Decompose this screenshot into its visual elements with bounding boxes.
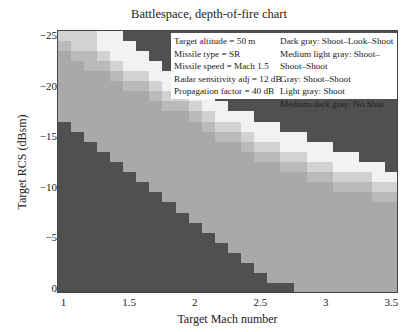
y-tick-label: −5 bbox=[45, 231, 57, 243]
heatmap-cell bbox=[294, 283, 308, 293]
heatmap-cell bbox=[215, 283, 229, 293]
legend-key: Light gray: Shoot bbox=[280, 85, 397, 98]
legend-param: Radar sensitivity adj = 12 dB bbox=[174, 73, 282, 86]
x-tick-label: 1.5 bbox=[122, 296, 136, 308]
heatmap-cell bbox=[280, 283, 295, 293]
y-tick-label: −15 bbox=[40, 130, 57, 142]
heatmap-cell bbox=[359, 283, 373, 293]
legend-param: Target altitude = 50 m bbox=[174, 35, 282, 48]
heatmap-cell bbox=[333, 283, 347, 293]
legend-key: Gray: Shoot–Shoot bbox=[280, 73, 397, 86]
legend-parameters: Target altitude = 50 m Missile type = SR… bbox=[174, 35, 282, 98]
legend-param: Propagation factor = 40 dB bbox=[174, 85, 282, 98]
heatmap-cell bbox=[320, 283, 334, 293]
heatmap-cell bbox=[254, 283, 268, 293]
heatmap-cell bbox=[176, 283, 190, 293]
legend-keys: Dark gray: Shoot–Look–Shoot Medium light… bbox=[280, 35, 397, 111]
legend-param: Missile type = SR bbox=[174, 48, 282, 61]
y-tick-label: −25 bbox=[40, 29, 57, 41]
heatmap-cell bbox=[202, 283, 216, 293]
legend-param: Missile speed = Mach 1.5 bbox=[174, 60, 282, 73]
y-tick-label: −10 bbox=[40, 181, 57, 193]
heatmap-cell bbox=[58, 283, 72, 293]
heatmap-cell bbox=[149, 283, 163, 293]
heatmap-cell bbox=[372, 283, 386, 293]
heatmap-cell bbox=[385, 283, 398, 293]
x-tick-label: 2 bbox=[192, 296, 198, 308]
legend-key: Dark gray: Shoot–Look–Shoot bbox=[280, 35, 397, 48]
heatmap-cell bbox=[71, 283, 85, 293]
heatmap-cell bbox=[162, 283, 177, 293]
x-tick-label: 2.5 bbox=[253, 296, 267, 308]
legend-key: Medium dark gray: No Shot bbox=[280, 98, 397, 111]
x-tick-label: 1 bbox=[61, 296, 67, 308]
heatmap-cell bbox=[110, 283, 124, 293]
heatmap-cell bbox=[136, 283, 150, 293]
legend-box: Target altitude = 50 m Missile type = SR… bbox=[171, 33, 397, 99]
heatmap-cell bbox=[241, 283, 255, 293]
heatmap-cell bbox=[228, 283, 242, 293]
heatmap-cell bbox=[123, 283, 137, 293]
y-axis-label: Target RCS (dBsm) bbox=[15, 115, 30, 210]
y-tick-label: −20 bbox=[40, 80, 57, 92]
heatmap-cell bbox=[189, 283, 203, 293]
heatmap-cell bbox=[97, 283, 111, 293]
heatmap-cell bbox=[267, 283, 281, 293]
legend-key: Medium light gray: Shoot–Shoot–Shoot bbox=[280, 48, 397, 73]
x-axis-label: Target Mach number bbox=[57, 312, 398, 327]
heatmap-cell bbox=[84, 283, 98, 293]
chart-title: Battlespace, depth-of-fire chart bbox=[0, 7, 418, 22]
x-tick-label: 3.5 bbox=[385, 296, 399, 308]
heatmap-cell bbox=[346, 283, 360, 293]
heatmap-cell bbox=[307, 283, 321, 293]
x-tick-label: 3 bbox=[323, 296, 329, 308]
